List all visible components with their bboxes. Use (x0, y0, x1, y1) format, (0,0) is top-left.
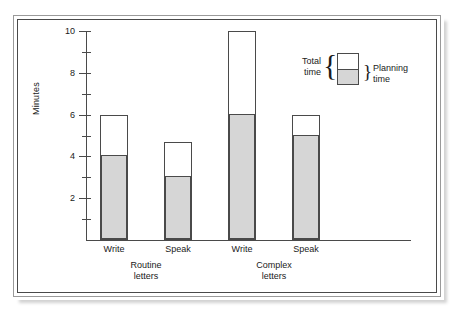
y-tick-minor-7 (82, 94, 91, 95)
bar-routine-write-planning (101, 155, 127, 239)
y-tick-minor-9 (82, 52, 91, 53)
legend-swatch-planning (338, 69, 358, 84)
group-label-complex-line1: Complex (250, 260, 298, 271)
legend-swatch-total (337, 53, 359, 85)
bar-routine-speak-total (164, 142, 192, 240)
x-label-complex-speak: Speak (282, 244, 330, 255)
y-tick-label-8: 8 (53, 68, 75, 78)
bar-complex-write-planning (229, 114, 255, 239)
bar-routine-speak (164, 19, 192, 240)
bar-routine-speak-planning (165, 176, 191, 239)
legend-planning-label: Planning time (373, 63, 425, 85)
x-axis-line (86, 240, 411, 241)
y-tick-label-4: 4 (53, 151, 75, 161)
bar-complex-speak-planning (293, 135, 319, 240)
brace-left-icon: { (323, 50, 337, 80)
bar-complex-speak-total (292, 115, 320, 240)
x-label-complex-write: Write (218, 244, 266, 255)
legend-planning-line1: Planning (373, 63, 408, 73)
y-tick-10 (79, 31, 91, 32)
bar-routine-write-total (100, 115, 128, 240)
y-tick-minor-1 (82, 219, 91, 220)
y-tick-label-2: 2 (53, 193, 75, 203)
y-tick-6 (79, 115, 91, 116)
group-label-complex-line2: letters (250, 271, 298, 282)
legend-planning-line2: time (373, 74, 390, 84)
y-tick-8 (79, 73, 91, 74)
bar-complex-write (228, 19, 256, 240)
y-axis-title: Minutes (31, 82, 41, 115)
y-tick-minor-3 (82, 177, 91, 178)
chart-legend: Total time { } Planning time (285, 51, 425, 95)
group-label-routine-line2: letters (122, 271, 170, 282)
brace-right-icon: } (363, 62, 372, 81)
y-tick-label-10: 10 (53, 26, 75, 36)
x-label-routine-write: Write (90, 244, 138, 255)
legend-total-line1: Total (302, 56, 321, 66)
figure-container: 10 8 6 4 2 Minutes (0, 0, 455, 313)
y-tick-4 (79, 156, 91, 157)
bar-complex-write-total (228, 31, 256, 240)
legend-total-label: Total time (285, 56, 321, 78)
plot-area: 10 8 6 4 2 Minutes (17, 19, 437, 293)
y-tick-2 (79, 198, 91, 199)
y-tick-label-6: 6 (53, 110, 75, 120)
legend-total-line2: time (304, 67, 321, 77)
bar-routine-write (100, 19, 128, 240)
group-label-routine-line1: Routine (122, 260, 170, 271)
x-label-routine-speak: Speak (154, 244, 202, 255)
y-tick-minor-5 (82, 136, 91, 137)
